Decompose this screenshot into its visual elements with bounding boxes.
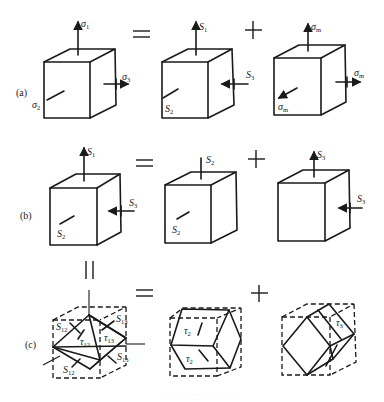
arrow-diagonal-icon xyxy=(279,88,297,98)
label-tau2-bottom: τ2 xyxy=(186,353,193,365)
label-S1: S1 xyxy=(199,21,207,33)
equals-operator-c xyxy=(136,290,153,296)
cube-a2: S1 S3 S2 xyxy=(162,21,254,118)
label-S3-right: S3 xyxy=(357,193,365,205)
label-S3-top: S3 xyxy=(317,149,325,161)
label-S2-front: S2 xyxy=(172,224,180,236)
label-sigma1: σ1 xyxy=(81,18,89,30)
equals-operator-b xyxy=(136,160,153,166)
cube-c3-dodecahedron: τ3 xyxy=(282,304,356,375)
arrow-diagonal-icon xyxy=(163,89,178,98)
plus-operator-c xyxy=(251,285,268,302)
label-tau13: τ13 xyxy=(104,332,114,344)
arrow-diagonal-icon xyxy=(47,91,64,100)
label-S3: S3 xyxy=(246,69,254,81)
cube-b3: S3 S3 xyxy=(278,149,365,241)
label-S2: S2 xyxy=(57,228,65,240)
cube-c2-dodecahedron: τ2 τ2 xyxy=(170,308,241,376)
row-label-c: (c) xyxy=(25,339,36,351)
label-S3: S3 xyxy=(129,197,137,209)
arrow-diagonal-icon xyxy=(177,212,189,219)
equals-operator-a xyxy=(133,31,150,37)
label-S13-a: S13 xyxy=(116,313,128,325)
label-sigma-m-right: σm xyxy=(354,67,364,79)
cube-b2: S2 S2 xyxy=(165,154,237,243)
label-S2-top: S2 xyxy=(206,154,214,166)
label-tau2-top: τ2 xyxy=(184,325,191,337)
cube-a3: σm σm σm xyxy=(274,21,364,115)
label-tau12: τ12 xyxy=(80,336,90,348)
row-label-a: (a) xyxy=(16,87,27,99)
label-sigma-m-top: σm xyxy=(311,21,321,33)
arrow-diagonal-icon xyxy=(60,216,74,224)
label-sigma-m-front: σm xyxy=(278,101,288,113)
label-S13-b: S13 xyxy=(117,351,129,363)
label-sigma2: σ2 xyxy=(32,99,40,111)
label-sigma3: σ3 xyxy=(122,71,130,83)
label-S12-a: S12 xyxy=(56,321,68,333)
cube-a1: σ1 σ3 σ2 xyxy=(32,18,130,118)
stress-decomposition-diagram: (a) σ1 σ3 σ2 S1 S3 S2 xyxy=(0,0,384,402)
cube-b1: S1 S3 S2 xyxy=(50,146,137,245)
figure-caption: · · · · · · · · · · · · · xyxy=(110,392,290,398)
plus-operator-a xyxy=(245,21,262,39)
cube-c1-octahedron: S12 S13 τ12 τ13 S13 S12 xyxy=(43,290,145,378)
plus-operator-b xyxy=(248,150,265,168)
vertical-equals-operator xyxy=(86,261,93,279)
row-label-b: (b) xyxy=(20,210,32,222)
label-S2: S2 xyxy=(165,103,173,115)
label-S1: S1 xyxy=(87,146,95,158)
